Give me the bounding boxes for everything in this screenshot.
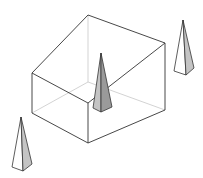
pyramid-center xyxy=(93,53,112,112)
box-edge xyxy=(88,110,165,143)
box-edge xyxy=(32,15,88,73)
pyramid-left-face xyxy=(93,53,101,112)
box-edge xyxy=(32,113,88,143)
pyramid-right xyxy=(174,20,194,75)
box-edge xyxy=(32,73,88,103)
box-edge xyxy=(88,15,165,43)
pyramid-bottom-left xyxy=(12,117,32,171)
isometric-diagram xyxy=(0,0,203,178)
pyramid-right-face xyxy=(21,117,32,171)
box-hidden-edge xyxy=(32,82,88,113)
pyramid-right-face xyxy=(101,53,112,112)
